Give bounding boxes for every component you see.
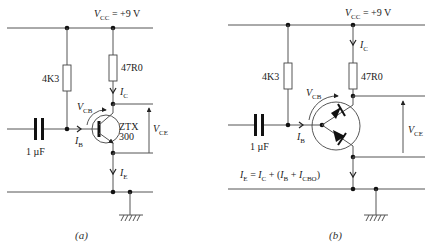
schematic-canvas: VCC = +9 V 4K3 47R0 IC 1 µF IB: [0, 0, 430, 247]
ib-label: IB: [296, 131, 305, 145]
base-resistor-label: 4K3: [262, 71, 279, 82]
vcc-label: VCC = +9 V: [345, 7, 392, 21]
base-resistor-label: 4K3: [42, 73, 59, 84]
base-resistor: [284, 63, 292, 89]
ie-label: IE: [119, 167, 128, 181]
base-node: [65, 127, 70, 132]
collector-resistor-label: 47R0: [121, 62, 143, 73]
capacitor-plate: [41, 118, 44, 140]
vce-label: VCE: [153, 123, 168, 137]
capacitor-plate: [261, 114, 264, 136]
circuit-figure: VCC = +9 V 4K3 47R0 IC 1 µF IB: [0, 0, 430, 247]
panel-a: VCC = +9 V 4K3 47R0 IC 1 µF IB: [7, 8, 168, 242]
vcc-label: VCC = +9 V: [94, 8, 141, 22]
vce-label: VCE: [408, 124, 423, 138]
collector-resistor: [349, 63, 357, 89]
capacitor-label: 1 µF: [26, 146, 45, 157]
collector-resistor-label: 47R0: [361, 71, 383, 82]
emitter-current-equation: IE = IC + (IB + ICBO): [239, 169, 320, 183]
collector-resistor: [109, 55, 117, 81]
ib-label: IB: [74, 135, 83, 149]
capacitor-plate: [254, 114, 257, 136]
base-resistor: [63, 65, 71, 91]
panel-b: VCC = +9 V IC 47R0 4K3 1 µF IB: [228, 7, 425, 242]
ic-label: IC: [359, 39, 368, 53]
ic-label: IC: [119, 86, 128, 100]
ground-icon: [119, 192, 143, 221]
capacitor-label: 1 µF: [250, 141, 269, 152]
capacitor-plate: [34, 118, 37, 140]
transistor-number: 300: [119, 131, 134, 142]
junction-dot: [351, 187, 356, 192]
diode-model-transistor-icon: [312, 96, 360, 157]
base-node: [286, 123, 291, 128]
vcb-label: VCB: [306, 87, 322, 101]
panel-b-caption: (b): [329, 229, 342, 242]
panel-a-caption: (a): [75, 229, 88, 242]
vcb-label: VCB: [77, 101, 93, 115]
ground-icon: [364, 189, 388, 221]
junction-dot: [111, 190, 116, 195]
